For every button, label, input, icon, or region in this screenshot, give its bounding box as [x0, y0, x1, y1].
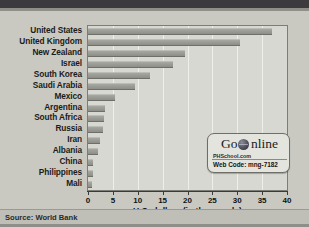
x-tick-label: 5 — [111, 196, 115, 205]
x-tick — [262, 191, 263, 195]
x-tick — [138, 191, 139, 195]
globe-icon — [238, 139, 249, 150]
x-tick-label: 25 — [208, 196, 217, 205]
category-label: Iran — [67, 135, 82, 144]
x-tick-label: 15 — [158, 196, 167, 205]
category-label: China — [59, 157, 82, 166]
x-tick — [163, 191, 164, 195]
bar — [88, 50, 185, 57]
category-label: Saudi Arabia — [33, 81, 82, 90]
bar-row — [88, 50, 287, 57]
x-tick — [212, 191, 213, 195]
category-label: Mali — [66, 179, 82, 188]
category-label: Mexico — [54, 92, 82, 101]
bar — [88, 159, 93, 166]
bottom-band — [0, 224, 309, 227]
category-label: Israel — [61, 59, 82, 68]
source-label: Source: World Bank — [5, 213, 77, 222]
bar — [88, 61, 173, 68]
badge-title: Gooonline — [208, 136, 291, 152]
bar — [88, 137, 100, 144]
x-tick-label: 0 — [86, 196, 90, 205]
bar — [88, 181, 92, 188]
bar-row — [88, 61, 287, 68]
go-online-badge[interactable]: Gooonline PHSchool.com Web Code: mng-718… — [207, 133, 290, 173]
bar — [88, 105, 105, 112]
category-label: South Korea — [34, 70, 82, 79]
x-tick-label: 30 — [233, 196, 242, 205]
x-tick — [188, 191, 189, 195]
bar-row — [88, 39, 287, 46]
bar — [88, 126, 103, 133]
badge-title-right: nline — [251, 136, 278, 151]
x-tick — [287, 191, 288, 195]
bar — [88, 39, 240, 46]
x-tick-label: 20 — [183, 196, 192, 205]
x-tick-label: 10 — [133, 196, 142, 205]
category-label: Albania — [53, 146, 82, 155]
x-tick-label: 40 — [283, 196, 292, 205]
bar — [88, 170, 93, 177]
bar-row — [88, 28, 287, 35]
bar — [88, 148, 98, 155]
x-tick — [237, 191, 238, 195]
bar-row — [88, 115, 287, 122]
category-label: United States — [30, 26, 82, 35]
category-label: Philippines — [39, 168, 82, 177]
category-label: United Kingdom — [19, 37, 82, 46]
bar-row — [88, 105, 287, 112]
category-label: South Africa — [34, 113, 82, 122]
x-tick — [88, 191, 89, 195]
category-labels: United StatesUnited KingdomNew ZealandIs… — [2, 25, 85, 191]
bar-row — [88, 94, 287, 101]
bar — [88, 28, 272, 35]
bar-row — [88, 181, 287, 188]
bar — [88, 94, 115, 101]
bar — [88, 83, 135, 90]
bar — [88, 72, 150, 79]
category-label: Russia — [55, 124, 82, 133]
chart-screenshot: United StatesUnited KingdomNew ZealandIs… — [0, 0, 309, 227]
x-tick-label: 35 — [258, 196, 267, 205]
category-label: Argentina — [44, 103, 82, 112]
chart-panel: United StatesUnited KingdomNew ZealandIs… — [0, 11, 309, 209]
category-label: New Zealand — [32, 48, 82, 57]
badge-divider — [212, 159, 287, 160]
badge-web-code: Web Code: mng-7182 — [213, 161, 278, 168]
badge-title-left: Go — [221, 136, 238, 151]
bar-row — [88, 83, 287, 90]
bar-row — [88, 72, 287, 79]
source-divider — [0, 209, 309, 210]
x-tick — [113, 191, 114, 195]
bar — [88, 115, 104, 122]
